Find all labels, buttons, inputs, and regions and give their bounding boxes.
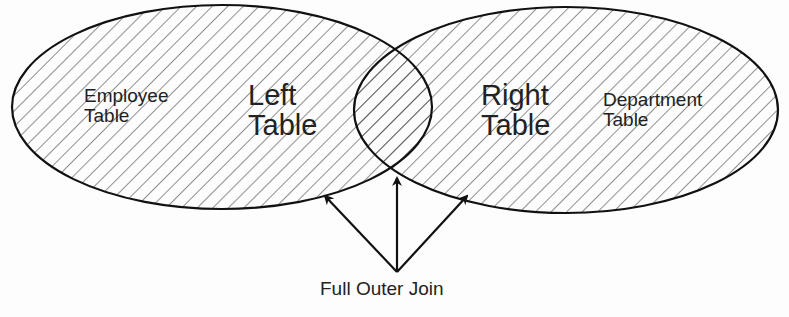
full-outer-join-caption: Full Outer Join [320,279,444,299]
venn-graphic [0,0,789,317]
right-label-line2: Table [481,110,550,140]
employee-label-line1: Employee [84,86,169,106]
right-label-line1: Right [481,80,550,110]
right-table-label: Right Table [481,80,550,141]
department-label-line1: Department [603,90,702,110]
department-label-line2: Table [603,110,702,130]
left-label-line2: Table [248,110,317,140]
right-table-ellipse [354,7,778,213]
left-table-label: Left Table [248,80,317,141]
department-table-label: Department Table [603,90,702,130]
full-outer-join-diagram: Employee Table Left Table Right Table De… [0,0,789,317]
employee-label-line2: Table [84,106,169,126]
left-label-line1: Left [248,80,317,110]
employee-table-label: Employee Table [84,86,169,126]
